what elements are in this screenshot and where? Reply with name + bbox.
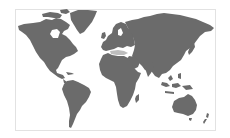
arctic-islands	[42, 9, 70, 18]
world-map	[0, 0, 230, 138]
new-zealand	[203, 113, 209, 124]
tasmania	[189, 118, 192, 121]
british-isles	[101, 32, 106, 39]
south-america	[62, 80, 91, 128]
southeast-asia-islands	[161, 73, 193, 94]
madagascar	[135, 94, 139, 103]
north-america	[18, 18, 78, 79]
greenland	[70, 10, 97, 34]
australia	[172, 94, 197, 116]
asia	[125, 13, 214, 78]
mediterranean	[110, 50, 128, 55]
